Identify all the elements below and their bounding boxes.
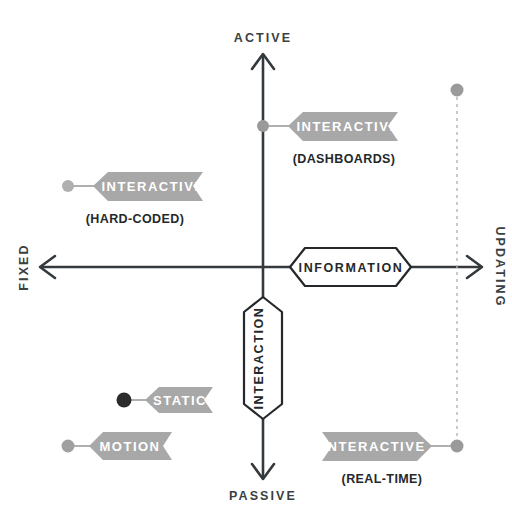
marker-interactive-real-time[interactable]: INTERACTIVE (REAL-TIME)	[322, 432, 464, 486]
flag-label: INTERACTIVE	[101, 179, 204, 194]
axis-label-updating: UPDATING	[493, 226, 507, 307]
marker-motion[interactable]: MOTION	[62, 432, 173, 460]
marker-updating-anchor[interactable]	[451, 84, 464, 97]
flag-sublabel: (REAL-TIME)	[342, 472, 423, 486]
diagram-canvas: ACTIVE PASSIVE FIXED UPDATING INFORMATIO…	[0, 0, 512, 526]
interaction-axis-badge: INTERACTION	[244, 297, 282, 419]
marker-dot[interactable]	[117, 393, 132, 408]
marker-interactive-hard-coded[interactable]: INTERACTIVE (HARD-CODED)	[62, 172, 205, 226]
marker-static[interactable]: STATIC	[117, 387, 214, 413]
information-badge-label: INFORMATION	[299, 261, 404, 275]
flag-label: STATIC	[153, 393, 207, 408]
flag-sublabel: (HARD-CODED)	[86, 212, 185, 226]
marker-dot[interactable]	[451, 440, 464, 453]
axis-label-fixed: FIXED	[17, 243, 31, 290]
marker-dot[interactable]	[62, 440, 75, 453]
axis-label-active: ACTIVE	[234, 31, 292, 45]
information-axis-badge: INFORMATION	[290, 248, 411, 286]
marker-dot[interactable]	[62, 180, 74, 192]
flag-label: MOTION	[100, 439, 161, 454]
interaction-badge-label: INTERACTION	[252, 306, 266, 409]
flag-sublabel: (DASHBOARDS)	[293, 152, 396, 166]
marker-interactive-dashboards[interactable]: INTERACTIVE (DASHBOARDS)	[257, 112, 400, 166]
marker-dot[interactable]	[451, 84, 464, 97]
flag-label: INTERACTIVE	[322, 439, 425, 454]
axis-label-passive: PASSIVE	[229, 489, 297, 503]
quadrant-diagram-svg: ACTIVE PASSIVE FIXED UPDATING INFORMATIO…	[0, 0, 512, 526]
flag-label: INTERACTIVE	[296, 119, 399, 134]
marker-dot[interactable]	[257, 120, 269, 132]
